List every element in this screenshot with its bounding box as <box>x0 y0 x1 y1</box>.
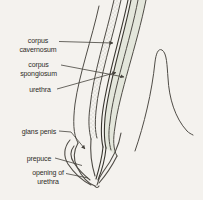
label-urethra: urethra <box>24 85 56 94</box>
label-glans-penis: glans penis <box>20 127 58 136</box>
anatomy-figure: corpus cavernosum corpus spongiosum uret… <box>0 0 203 200</box>
scrotum-outline <box>135 50 193 151</box>
leader-glans-penis <box>59 131 85 149</box>
label-opening-of-urethra: opening of urethra <box>28 168 68 186</box>
label-prepuce: prepuce <box>24 154 54 163</box>
label-corpus-cavernosum: corpus cavernosum <box>18 36 58 54</box>
label-corpus-spongiosum: corpus spongiosum <box>17 60 60 78</box>
